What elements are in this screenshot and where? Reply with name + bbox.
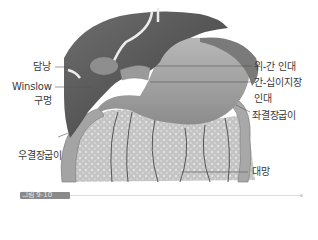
caption-divider-end	[300, 194, 303, 197]
caption-divider	[70, 195, 302, 196]
gallbladder	[90, 57, 118, 75]
label-hepatoduodenal-ligament-2: 인대	[254, 93, 272, 105]
label-right-colic-flexure: 우결장굽이	[18, 150, 62, 162]
label-winslow-2: 구멍	[34, 95, 52, 107]
label-gallbladder: 담낭	[33, 61, 51, 73]
label-left-colic-flexure: 좌결장굽이	[252, 110, 296, 122]
figure-caption: 그림 9-10	[22, 191, 68, 199]
label-hepatogastric-ligament: 위-간 인대	[254, 61, 296, 73]
label-winslow: Winslow	[12, 81, 52, 93]
label-greater-omentum: 대망	[252, 166, 270, 178]
label-hepatoduodenal-ligament: 간-십이지장	[254, 77, 301, 89]
